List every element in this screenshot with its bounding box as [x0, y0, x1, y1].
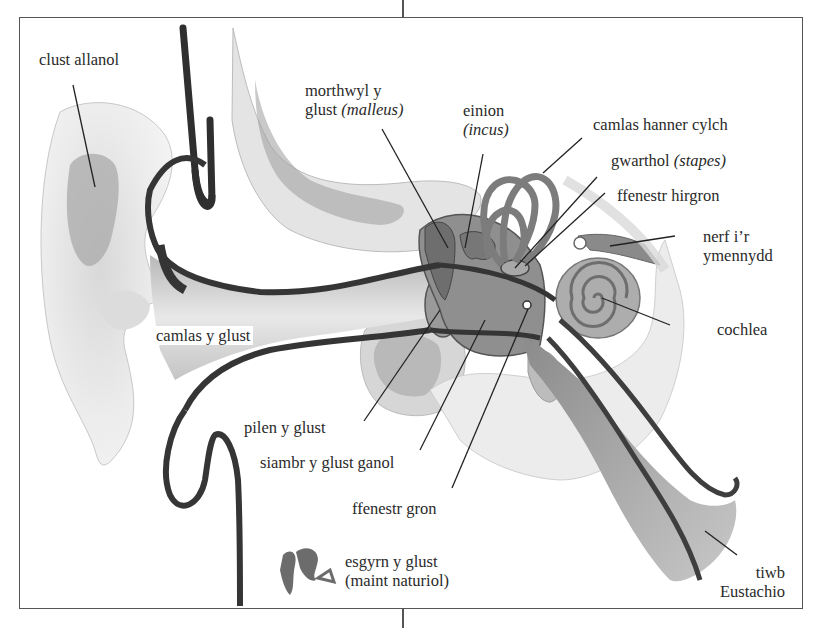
label-semicircular-canal: camlas hanner cylch — [593, 115, 728, 134]
round-window-shape — [523, 301, 531, 309]
label-round-window: ffenestr gron — [352, 499, 436, 518]
label-eustachian-tube: tiwb Eustachio — [700, 563, 785, 601]
label-ossicles-actual-size: esgyrn y glust (maint naturiol) — [345, 552, 449, 590]
label-cochlea: cochlea — [717, 320, 767, 339]
label-eardrum: pilen y glust — [244, 418, 326, 437]
label-ear-canal: camlas y glust — [153, 326, 253, 345]
label-middle-ear: siambr y glust ganol — [260, 453, 394, 472]
label-malleus: morthwyl y glust (malleus) — [305, 81, 404, 119]
ossicles-actual-size-shapes — [280, 548, 334, 595]
label-incus: einion (incus) — [463, 101, 509, 139]
label-stapes: gwarthol (stapes) — [611, 151, 726, 170]
label-outer-ear: clust allanol — [39, 50, 119, 69]
ear-illustration — [0, 0, 824, 628]
label-auditory-nerve: nerf i’r ymennydd — [703, 227, 773, 265]
label-oval-window: ffenestr hirgron — [617, 186, 720, 205]
semicircular-canals — [484, 177, 556, 265]
